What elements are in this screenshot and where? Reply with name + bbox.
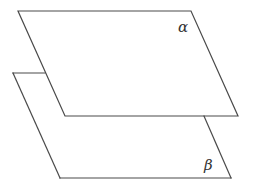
plane-beta: β bbox=[13, 73, 231, 178]
plane-beta-label: β bbox=[203, 156, 213, 174]
parallel-planes-diagram: β α bbox=[0, 0, 253, 191]
plane-alpha-label: α bbox=[178, 18, 188, 36]
plane-alpha-outline bbox=[18, 11, 238, 116]
plane-alpha: α bbox=[18, 11, 238, 116]
